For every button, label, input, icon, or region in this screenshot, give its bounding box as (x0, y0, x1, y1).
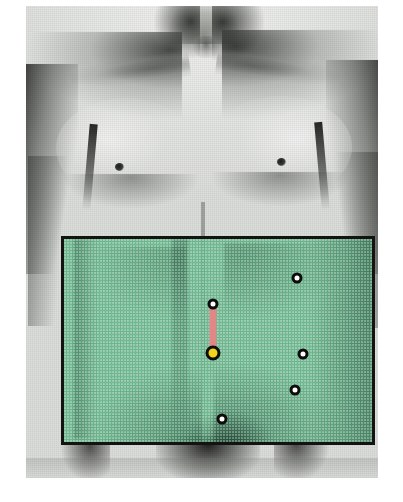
camera-port-marker[interactable] (206, 346, 221, 361)
sternal-notch (193, 36, 219, 58)
suprapubic-shadow (184, 411, 274, 445)
nipple-right (277, 158, 286, 166)
costal-margin-left (90, 247, 186, 317)
page-bottom-margin (0, 478, 403, 502)
figure-root (0, 0, 403, 502)
port-marker-mid-right[interactable] (298, 349, 309, 360)
costal-margin-right (224, 243, 344, 319)
port-marker-lower-midline[interactable] (217, 414, 228, 425)
nipple-left (115, 163, 124, 171)
port-marker-lower-right[interactable] (290, 385, 301, 396)
torso-photograph (26, 6, 378, 478)
port-marker-upper-right[interactable] (292, 273, 303, 284)
port-marker-upper-midline[interactable] (208, 299, 219, 310)
photo-bottom-shadow (26, 458, 378, 478)
